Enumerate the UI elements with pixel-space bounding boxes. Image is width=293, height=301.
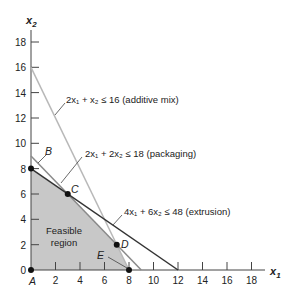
svg-text:16: 16 xyxy=(221,275,233,286)
point-A-label: A xyxy=(28,275,36,287)
y-tick-labels: 0 2 4 6 8 10 12 14 16 18 xyxy=(15,37,27,276)
x-axis-title: x1 xyxy=(269,265,281,280)
leader-additive xyxy=(55,103,65,115)
svg-text:4: 4 xyxy=(20,214,26,225)
svg-text:4: 4 xyxy=(77,275,83,286)
y-axis-title: x2 xyxy=(25,14,37,29)
feasible-region xyxy=(31,169,129,270)
svg-text:18: 18 xyxy=(246,275,258,286)
point-D-label: D xyxy=(121,238,129,250)
svg-text:16: 16 xyxy=(15,62,27,73)
leader-extrusion xyxy=(113,215,122,225)
point-A xyxy=(28,267,34,273)
feasible-region-label-2: region xyxy=(51,237,77,248)
svg-text:6: 6 xyxy=(102,275,108,286)
svg-text:6: 6 xyxy=(20,189,26,200)
svg-text:2: 2 xyxy=(53,275,59,286)
svg-text:12: 12 xyxy=(15,113,27,124)
point-E xyxy=(126,267,132,273)
svg-text:14: 14 xyxy=(15,88,27,99)
svg-text:14: 14 xyxy=(197,275,209,286)
svg-text:8: 8 xyxy=(20,164,26,175)
svg-text:12: 12 xyxy=(172,275,184,286)
annotation-packaging: 2x₁ + 2x₂ ≤ 18 (packaging) xyxy=(85,148,196,159)
leader-packaging xyxy=(61,157,82,183)
point-D xyxy=(114,242,120,248)
x-tick-labels: 2 4 6 8 10 12 14 16 18 xyxy=(53,275,258,286)
point-C xyxy=(65,191,71,197)
feasible-region-label-1: Feasible xyxy=(46,225,82,236)
annotation-additive-mix: 2x₁ + x₂ ≤ 16 (additive mix) xyxy=(66,94,179,105)
svg-text:0: 0 xyxy=(20,265,26,276)
svg-text:10: 10 xyxy=(15,138,27,149)
point-E-label: E xyxy=(97,249,105,261)
point-C-label: C xyxy=(71,183,79,195)
linear-programming-chart: 0 2 4 6 8 10 12 14 16 18 2 4 6 8 10 12 1… xyxy=(0,0,293,301)
point-B xyxy=(28,166,34,172)
svg-text:8: 8 xyxy=(126,275,132,286)
point-B-label: B xyxy=(45,145,52,157)
annotation-extrusion: 4x₁ + 6x₂ ≤ 48 (extrusion) xyxy=(124,206,230,217)
svg-text:18: 18 xyxy=(15,37,27,48)
svg-text:10: 10 xyxy=(148,275,160,286)
svg-text:2: 2 xyxy=(20,240,26,251)
